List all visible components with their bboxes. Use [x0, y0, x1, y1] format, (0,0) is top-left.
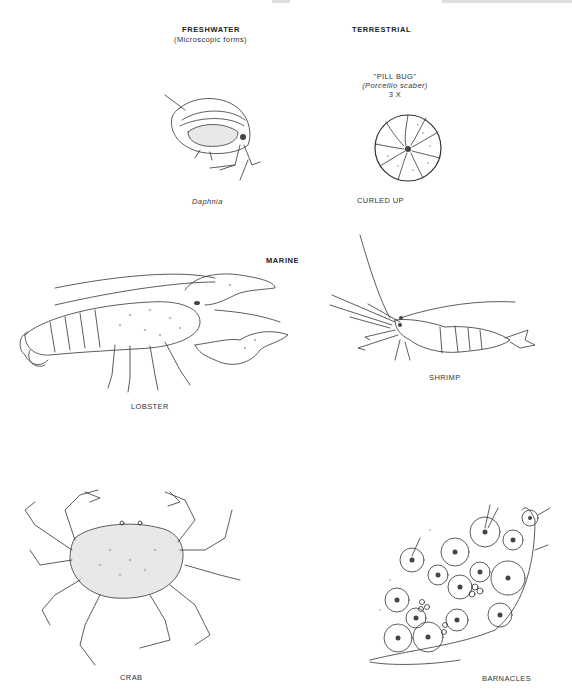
freshwater-subheading: (Microscopic forms) [174, 35, 247, 44]
pill-bug-scientific-name: (Porcellio scaber) [350, 81, 440, 90]
daphnia-illustration [140, 90, 280, 190]
pill-bug-illustration [368, 108, 448, 188]
lobster-caption: LOBSTER [131, 402, 169, 411]
daphnia-caption: Daphnia [192, 197, 223, 206]
freshwater-heading: FRESHWATER [182, 25, 240, 34]
lobster-illustration [0, 260, 300, 400]
crab-illustration [0, 470, 290, 670]
terrestrial-heading: TERRESTRIAL [352, 25, 411, 34]
pill-bug-caption: CURLED UP [357, 196, 404, 205]
barnacles-caption: BARNACLES [482, 674, 531, 683]
pill-bug-name: "PILL BUG" [355, 72, 435, 81]
barnacles-illustration [330, 490, 572, 670]
shrimp-illustration [300, 230, 572, 370]
crab-caption: CRAB [120, 673, 142, 682]
shrimp-caption: SHRIMP [429, 373, 461, 382]
pill-bug-magnification: 3 X [355, 90, 435, 99]
page-header-artifact [0, 0, 572, 6]
